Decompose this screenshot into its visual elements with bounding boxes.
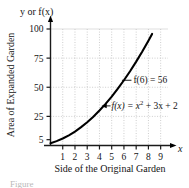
figure-caption-partial: Figure bbox=[10, 179, 34, 188]
chart-canvas: 5255075100 123456789 f(6) = 56 f(x) = x2… bbox=[0, 0, 189, 188]
annotation-function-label: f(x) = x2 + 3x + 2 bbox=[112, 99, 179, 112]
x-axis-title: Side of the Original Garden bbox=[54, 163, 165, 174]
figure-container: 5255075100 123456789 f(6) = 56 f(x) = x2… bbox=[0, 0, 189, 188]
x-axis-tick-labels: 123456789 bbox=[60, 152, 163, 162]
x-tick-label-1: 1 bbox=[60, 152, 65, 162]
function-label-tail: + 3x + 2 bbox=[143, 101, 178, 111]
y-axis-header-label: y or f(x) bbox=[20, 6, 53, 18]
function-curve bbox=[51, 34, 153, 143]
y-tick-label-100: 100 bbox=[29, 24, 44, 34]
x-tick-label-8: 8 bbox=[146, 152, 151, 162]
x-tick-label-5: 5 bbox=[109, 152, 114, 162]
x-axis-arrowhead bbox=[170, 143, 177, 148]
x-tick-label-2: 2 bbox=[73, 152, 78, 162]
y-axis-title: Area of Expanded Garden bbox=[5, 33, 16, 138]
y-tick-label-5: 5 bbox=[39, 135, 44, 145]
annotation-f6-label: f(6) = 56 bbox=[133, 75, 167, 86]
x-tick-label-4: 4 bbox=[97, 152, 102, 162]
y-tick-label-75: 75 bbox=[34, 54, 44, 64]
x-tick-label-9: 9 bbox=[158, 152, 163, 162]
x-tick-label-6: 6 bbox=[122, 152, 127, 162]
function-label-lead: f(x) = x bbox=[112, 101, 141, 112]
y-tick-label-25: 25 bbox=[34, 112, 44, 122]
svg-text:f(x) = x2 + 3x + 2: f(x) = x2 + 3x + 2 bbox=[112, 99, 179, 112]
y-tick-label-50: 50 bbox=[34, 83, 44, 93]
y-axis-tick-labels: 5255075100 bbox=[29, 24, 44, 145]
x-tick-label-3: 3 bbox=[85, 152, 90, 162]
x-tick-label-7: 7 bbox=[134, 152, 139, 162]
x-axis-symbol-label: x bbox=[177, 143, 183, 154]
